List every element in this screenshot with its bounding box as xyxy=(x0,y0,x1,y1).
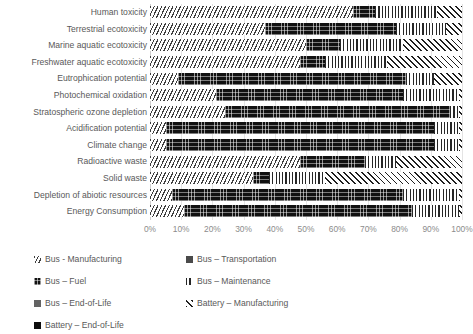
y-axis-label: Marine aquatic ecotoxicity xyxy=(2,37,150,54)
y-axis-label: Stratospheric ozone depletion xyxy=(2,104,150,121)
y-axis-label: Photochemical oxidation xyxy=(2,87,150,104)
stacked-bar xyxy=(150,156,462,168)
bar-segment xyxy=(150,172,253,184)
legend-swatch-icon xyxy=(34,278,41,285)
bar-segment xyxy=(459,122,462,134)
legend-swatch-icon xyxy=(34,300,41,307)
stacked-bar xyxy=(150,6,462,18)
bar-segment xyxy=(365,156,396,168)
x-axis-tick: 30% xyxy=(235,224,252,234)
bar-segment xyxy=(434,73,462,85)
bar-segment xyxy=(150,122,166,134)
bar-segment xyxy=(150,39,306,51)
bar-segment xyxy=(150,189,172,201)
legend-label: Bus – Transportation xyxy=(197,255,276,264)
legend-swatch-icon xyxy=(186,300,193,307)
bar-segment xyxy=(459,89,462,101)
bar-segment xyxy=(265,23,396,35)
stacked-bar xyxy=(150,39,462,51)
bar-segment xyxy=(306,39,340,51)
bar-segment xyxy=(396,23,446,35)
legend-item[interactable]: Bus – Maintenance xyxy=(186,270,338,292)
bar-segment xyxy=(150,23,265,35)
bar-segment xyxy=(387,56,462,68)
legend-swatch-icon xyxy=(186,278,193,285)
bar-row xyxy=(150,137,462,154)
bar-segment xyxy=(375,6,437,18)
legend-swatch-icon xyxy=(34,322,41,329)
x-axis-tick-labels: 0%10%20%30%40%50%60%70%80%90%100% xyxy=(150,224,462,238)
y-axis-label: Eutrophication potential xyxy=(2,70,150,87)
bar-rows xyxy=(150,4,462,220)
bar-segment xyxy=(150,73,178,85)
stacked-bar xyxy=(150,122,462,134)
bar-segment xyxy=(269,172,325,184)
bar-segment xyxy=(225,106,450,118)
bar-segment xyxy=(300,56,325,68)
bar-segment xyxy=(325,172,462,184)
legend-label: Battery – Manufacturing xyxy=(197,299,288,308)
y-axis-label: Climate change xyxy=(2,137,150,154)
bar-segment xyxy=(340,39,402,51)
bar-segment xyxy=(406,73,434,85)
legend-label: Battery – End-of-Life xyxy=(45,321,124,330)
bar-segment xyxy=(253,172,269,184)
y-axis-label: Acidification potential xyxy=(2,120,150,137)
bar-segment xyxy=(216,89,403,101)
x-axis-tick: 90% xyxy=(422,224,439,234)
y-axis-label: Human toxicity xyxy=(2,4,150,21)
legend-item[interactable]: Battery – End-of-Life xyxy=(34,314,186,334)
bar-segment xyxy=(459,205,462,217)
bar-segment xyxy=(150,156,300,168)
stacked-bar xyxy=(150,106,462,118)
legend-item[interactable]: Battery – Manufacturing xyxy=(186,292,338,314)
stacked-bar xyxy=(150,56,462,68)
bar-row xyxy=(150,87,462,104)
y-axis-category-labels: Human toxicityTerrestrial ecotoxicityMar… xyxy=(0,4,150,220)
y-axis-label: Solid waste xyxy=(2,170,150,187)
bar-segment xyxy=(459,189,462,201)
bar-row xyxy=(150,37,462,54)
bar-segment xyxy=(450,106,459,118)
bar-row xyxy=(150,170,462,187)
bar-row xyxy=(150,120,462,137)
bar-segment xyxy=(403,89,459,101)
bar-segment xyxy=(150,205,184,217)
bar-segment xyxy=(403,189,459,201)
bar-row xyxy=(150,54,462,71)
stacked-bar xyxy=(150,73,462,85)
bar-segment xyxy=(166,139,434,151)
legend-item[interactable]: Bus - Manufacturing xyxy=(34,248,186,270)
legend-label: Bus – Maintenance xyxy=(197,277,271,286)
x-axis-tick: 50% xyxy=(298,224,315,234)
bar-segment xyxy=(150,6,353,18)
x-axis-tick: 70% xyxy=(360,224,377,234)
bar-segment xyxy=(300,156,366,168)
bar-segment xyxy=(150,139,166,151)
bar-segment xyxy=(459,139,462,151)
bar-segment xyxy=(325,56,387,68)
bar-segment xyxy=(150,106,225,118)
bar-segment xyxy=(459,106,462,118)
bar-segment xyxy=(166,122,434,134)
legend-item[interactable]: Bus – Fuel xyxy=(34,270,186,292)
bar-row xyxy=(150,203,462,220)
y-axis-label: Depletion of abiotic resources xyxy=(2,187,150,204)
bar-segment xyxy=(184,205,412,217)
bar-segment xyxy=(434,122,459,134)
y-axis-label: Energy Consumption xyxy=(2,203,150,220)
legend-item[interactable]: Bus – Transportation xyxy=(186,248,338,270)
legend-label: Bus - Manufacturing xyxy=(45,255,122,264)
legend-item[interactable]: Bus – End-of-Life xyxy=(34,292,186,314)
y-axis-label: Radioactive waste xyxy=(2,153,150,170)
legend-label: Bus – End-of-Life xyxy=(45,299,111,308)
plot-area: Human toxicityTerrestrial ecotoxicityMar… xyxy=(0,0,472,240)
bar-row xyxy=(150,70,462,87)
bar-segment xyxy=(172,189,403,201)
stacked-bar xyxy=(150,172,462,184)
x-axis-tick: 40% xyxy=(266,224,283,234)
stacked-bar xyxy=(150,139,462,151)
stacked-bar xyxy=(150,89,462,101)
bar-segment xyxy=(353,6,375,18)
